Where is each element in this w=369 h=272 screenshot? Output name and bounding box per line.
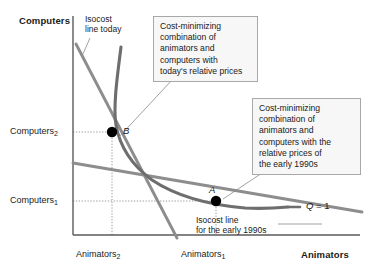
x-axis-title: Animators — [301, 249, 349, 260]
y-tick-computers-2: Computers2 — [10, 126, 58, 138]
isoquant-label: Q = 1 — [306, 200, 330, 211]
callout-1990s-line-1: Cost-minimizing — [259, 103, 355, 114]
callout-today-line-2: combination of — [160, 32, 252, 43]
callout-1990s-line-5: relative prices of — [259, 148, 355, 159]
isocost-today-note-line2: line today — [85, 24, 121, 34]
callout-1990s-line-3: animators and — [259, 125, 355, 136]
point-a-label: A — [209, 184, 215, 195]
point-a-marker — [211, 196, 221, 206]
leader-isocost-today — [82, 38, 90, 56]
point-b-marker — [107, 127, 117, 137]
callout-1990s-line-2: combination of — [259, 114, 355, 125]
isocost-1990s-note-line1: Isocost line — [196, 215, 266, 225]
isocost-today-note: Isocost line today — [85, 14, 121, 34]
y-tick-computers-2-text: Computers — [10, 126, 54, 136]
callout-1990s-line-4: computers with the — [259, 137, 355, 148]
point-b-label: B — [123, 125, 129, 136]
isoquant-label-eq: = 1 — [316, 200, 329, 211]
callout-today-line-5: today's relative prices — [160, 66, 252, 77]
isoquant-isocost-figure: Computers Animators Computers2 Computers… — [0, 0, 369, 272]
y-tick-computers-1-text: Computers — [10, 195, 54, 205]
callout-1990s: Cost-minimizing combination of animators… — [252, 98, 361, 175]
y-tick-computers-1: Computers1 — [10, 195, 58, 207]
x-tick-animators-1-text: Animators — [181, 249, 222, 259]
x-tick-animators-2-sub: 2 — [117, 253, 121, 260]
callout-1990s-line-6: the early 1990s — [259, 159, 355, 170]
isocost-1990s-note: Isocost line for the early 1990s — [196, 215, 266, 235]
isocost-1990s-note-line2: for the early 1990s — [196, 225, 266, 235]
y-tick-computers-2-sub: 2 — [54, 130, 58, 137]
callout-today-line-4: computers with — [160, 55, 252, 66]
callout-today: Cost-minimizing combination of animators… — [153, 16, 258, 82]
isocost-today-note-line1: Isocost — [85, 14, 121, 24]
x-tick-animators-1-sub: 1 — [222, 253, 226, 260]
callout-today-line-1: Cost-minimizing — [160, 21, 252, 32]
y-axis-title: Computers — [19, 15, 70, 26]
x-tick-animators-2: Animators2 — [76, 249, 120, 261]
isoquant-label-q: Q — [306, 200, 313, 211]
x-tick-animators-1: Animators1 — [181, 249, 225, 261]
x-tick-animators-2-text: Animators — [76, 249, 117, 259]
y-tick-computers-1-sub: 1 — [54, 199, 58, 206]
callout-today-line-3: animators and — [160, 43, 252, 54]
